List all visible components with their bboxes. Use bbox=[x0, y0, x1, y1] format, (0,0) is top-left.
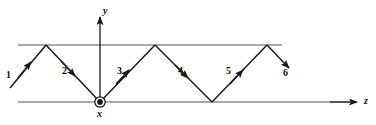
ray-zigzag-figure: y z x 1 2 3 4 5 6 bbox=[0, 0, 376, 125]
ray-segment-3 bbox=[100, 45, 155, 102]
z-axis-label: z bbox=[364, 96, 368, 106]
segment-label-4: 4 bbox=[178, 66, 183, 76]
segment-label-3: 3 bbox=[117, 66, 122, 76]
segment-label-1: 1 bbox=[6, 70, 11, 80]
ray-segment-6 bbox=[267, 45, 289, 68]
ray-arrow-1 bbox=[18, 62, 31, 78]
y-axis-label: y bbox=[103, 6, 107, 16]
origin-x-label: x bbox=[97, 109, 102, 119]
segment-label-5: 5 bbox=[226, 66, 231, 76]
origin-dot-icon bbox=[97, 99, 103, 105]
ray-arrow-5 bbox=[230, 70, 243, 84]
segment-label-2: 2 bbox=[62, 66, 67, 76]
segment-label-6: 6 bbox=[283, 68, 288, 78]
figure-canvas bbox=[0, 0, 376, 125]
